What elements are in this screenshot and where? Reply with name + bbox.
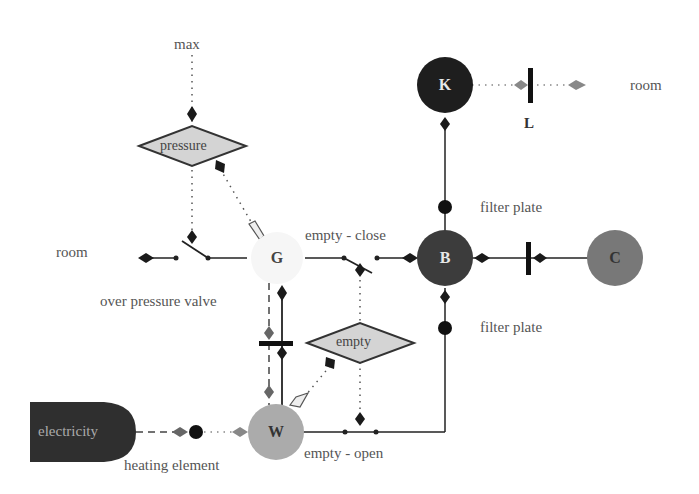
pen-tip-icon — [290, 393, 308, 407]
filter-plate-top-label: filter plate — [480, 200, 542, 215]
arrow-icon — [187, 106, 197, 122]
valve-icon — [528, 68, 533, 103]
empty-open-label: empty - open — [304, 446, 383, 461]
valve-l-label: L — [524, 116, 534, 131]
g-to-pressure-edge — [215, 160, 264, 240]
electricity-to-w-edge — [136, 425, 248, 439]
arrow-icon — [402, 253, 418, 263]
arrow-icon — [264, 326, 274, 340]
pressure-label: pressure — [160, 139, 207, 153]
max-to-pressure-edge — [187, 55, 197, 128]
arrow-icon — [232, 427, 248, 437]
filter-plate-bottom-label: filter plate — [480, 320, 542, 335]
arrow-icon — [440, 117, 450, 131]
arrow-icon — [264, 385, 274, 399]
w-to-b-edge — [303, 288, 452, 435]
empty-to-close-switch-edge — [355, 263, 365, 325]
over-pressure-valve-label: over pressure valve — [100, 294, 217, 309]
node-w-label: W — [262, 424, 290, 440]
node-c-label: C — [601, 250, 629, 266]
heating-element-icon — [189, 425, 203, 439]
c-to-b-edge — [472, 242, 589, 275]
filter-plate-icon — [438, 321, 452, 335]
over-pressure-valve-edge — [138, 241, 247, 263]
arrow-icon — [514, 80, 528, 90]
process-diagram-canvas — [0, 0, 699, 494]
arrow-icon — [172, 427, 188, 437]
k-to-room-edge — [472, 68, 586, 103]
valve-icon — [526, 242, 531, 275]
arrow-icon — [355, 412, 365, 426]
g-to-w-dashed-edge — [259, 283, 293, 405]
room-top-label: room — [630, 78, 662, 93]
pressure-to-valve-edge — [187, 170, 197, 244]
empty-label: empty — [336, 335, 371, 349]
arrow-icon — [277, 346, 287, 360]
room-left-label: room — [56, 245, 88, 260]
heating-element-label: heating element — [124, 458, 219, 473]
w-to-empty-edge — [290, 357, 335, 407]
arrow-icon — [325, 357, 335, 369]
arrow-icon — [187, 230, 197, 244]
arrow-icon — [215, 160, 225, 173]
arrow-icon — [440, 290, 450, 304]
node-b-label: B — [431, 250, 459, 266]
electricity-label: electricity — [38, 424, 98, 439]
b-to-k-edge — [438, 117, 452, 232]
arrow-icon — [138, 253, 154, 263]
arrow-icon — [277, 285, 287, 301]
max-label: max — [174, 37, 200, 52]
arrow-icon — [533, 253, 547, 263]
arrow-icon — [568, 80, 586, 90]
filter-plate-icon — [438, 200, 452, 214]
empty-close-label: empty - close — [305, 228, 386, 243]
node-g-label: G — [263, 250, 291, 266]
node-k-label: K — [431, 77, 459, 93]
arrow-icon — [474, 253, 490, 263]
valve-icon — [259, 341, 293, 346]
empty-to-open-switch-edge — [355, 362, 365, 426]
